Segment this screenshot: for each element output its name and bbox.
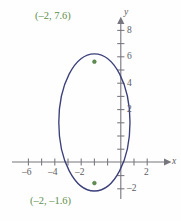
x-tick-label-2: 2 — [144, 168, 149, 178]
x-axis-group — [12, 158, 172, 165]
plot-point-bottom — [93, 181, 97, 185]
ellipse-plot-figure: –6 –4 –2 2 8 6 4 2 –2 x y (–2, 7.6) (–2,… — [0, 0, 181, 221]
y-axis-label: y — [124, 8, 128, 18]
plot-point-top — [93, 60, 97, 64]
x-tick-label--6: –6 — [22, 168, 32, 178]
plot-canvas — [0, 0, 181, 221]
x-tick-label--4: –4 — [48, 168, 58, 178]
y-tick-label-8: 8 — [127, 26, 132, 36]
x-tick-label--2: –2 — [75, 168, 85, 178]
x-axis-label: x — [172, 157, 176, 167]
y-axis-group — [117, 17, 124, 199]
y-tick-label-2: 2 — [127, 105, 132, 115]
y-axis-arrow-icon — [117, 17, 124, 24]
point-label-bottom: (–2, –1.6) — [30, 196, 71, 207]
y-tick-label-4: 4 — [127, 79, 132, 89]
x-axis-arrow-icon — [164, 158, 172, 165]
y-tick-label-6: 6 — [127, 52, 132, 62]
point-label-top: (–2, 7.6) — [35, 11, 71, 22]
y-tick-label--2: –2 — [127, 184, 137, 194]
